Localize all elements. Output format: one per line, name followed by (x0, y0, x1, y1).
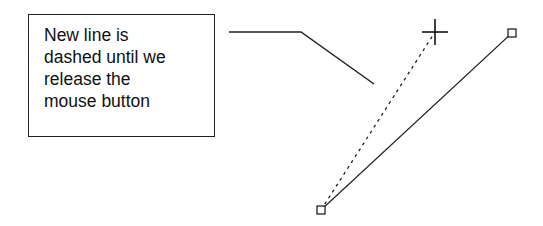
start-handle-icon[interactable] (317, 206, 325, 214)
callout-connector-line (229, 32, 374, 84)
end-handle-icon[interactable] (508, 29, 516, 37)
crosshair-cursor-icon (422, 19, 448, 45)
solid-line[interactable] (321, 33, 512, 210)
drawing-canvas (0, 0, 543, 226)
